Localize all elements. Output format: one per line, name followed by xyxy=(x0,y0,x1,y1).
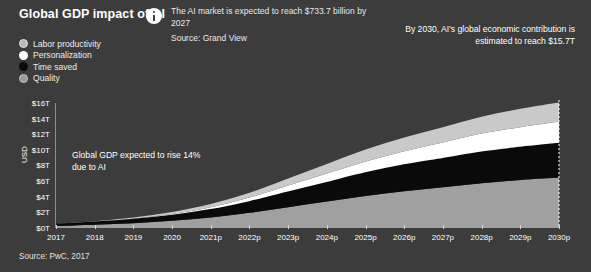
x-tick-label: 2019 xyxy=(124,233,142,242)
projection-callout: By 2030, AI's global economic contributi… xyxy=(385,24,575,47)
x-tick-label: 2022p xyxy=(238,233,260,242)
legend-label: Labor productivity xyxy=(33,39,101,49)
x-tick-mark xyxy=(327,225,328,229)
legend-marker-icon xyxy=(19,39,28,48)
footer-source: Source: PwC, 2017 xyxy=(19,252,90,261)
y-tick-label: $16T xyxy=(32,99,50,108)
x-tick-mark xyxy=(172,225,173,229)
info-callout-text: The AI market is expected to reach $733.… xyxy=(171,6,376,29)
legend-item-labor-productivity[interactable]: Labor productivity xyxy=(19,38,101,50)
x-tick-label: 2030p xyxy=(548,233,570,242)
legend-item-time-saved[interactable]: Time saved xyxy=(19,61,101,73)
chart-annotation: Global GDP expected to rise 14% due to A… xyxy=(72,150,202,173)
infographic-panel: Global GDP impact of AI The AI market is… xyxy=(0,0,591,272)
y-tick-label: $12T xyxy=(32,130,50,139)
info-callout-source: Source: Grand View xyxy=(171,33,247,43)
x-tick-label: 2018 xyxy=(86,233,104,242)
x-tick-mark xyxy=(559,225,560,229)
legend-item-quality[interactable]: Quality xyxy=(19,73,101,85)
y-tick-label: $14T xyxy=(32,114,50,123)
x-tick-label: 2028p xyxy=(470,233,492,242)
x-tick-label: 2017 xyxy=(47,233,65,242)
legend-label: Quality xyxy=(33,73,60,83)
y-tick-label: $4T xyxy=(36,192,50,201)
x-tick-mark xyxy=(56,225,57,229)
page-title: Global GDP impact of AI xyxy=(19,7,165,21)
x-tick-label: 2021p xyxy=(200,233,222,242)
x-tick-label: 2029p xyxy=(509,233,531,242)
x-tick-mark xyxy=(482,225,483,229)
y-tick-label: $8T xyxy=(36,161,50,170)
legend-marker-icon xyxy=(19,74,28,83)
x-tick-label: 2024p xyxy=(316,233,338,242)
legend-marker-icon xyxy=(19,51,28,60)
y-tick-label: $0T xyxy=(36,223,50,232)
y-axis: $16T $14T $12T $10T $8T $6T $4T $2T $0T xyxy=(0,96,56,232)
x-tick-mark xyxy=(404,225,405,229)
x-tick-mark xyxy=(95,225,96,229)
x-tick-label: 2020 xyxy=(163,233,181,242)
legend-item-personalization[interactable]: Personalization xyxy=(19,50,101,62)
x-tick-mark xyxy=(366,225,367,229)
x-tick-label: 2027p xyxy=(432,233,454,242)
x-tick-label: 2023p xyxy=(277,233,299,242)
y-tick-label: $6T xyxy=(36,177,50,186)
legend-label: Time saved xyxy=(33,62,77,72)
legend-marker-icon xyxy=(19,62,28,71)
y-axis-title: USD xyxy=(20,146,29,163)
x-tick-mark xyxy=(288,225,289,229)
y-tick-label: $10T xyxy=(32,145,50,154)
x-axis: 20172018201920202021p2022p2023p2024p2025… xyxy=(56,229,560,247)
x-tick-mark xyxy=(133,225,134,229)
x-tick-mark xyxy=(211,225,212,229)
y-tick-label: $2T xyxy=(36,208,50,217)
x-tick-mark xyxy=(249,225,250,229)
legend-label: Personalization xyxy=(33,50,92,60)
info-circle-icon xyxy=(146,8,162,24)
chart-legend: Labor productivity Personalization Time … xyxy=(19,38,101,84)
x-tick-mark xyxy=(520,225,521,229)
x-tick-label: 2026p xyxy=(393,233,415,242)
x-tick-mark xyxy=(443,225,444,229)
x-tick-label: 2025p xyxy=(354,233,376,242)
